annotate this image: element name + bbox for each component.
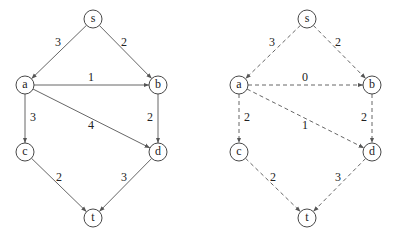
edge-weight-label: 0: [302, 70, 308, 84]
node-label: s: [91, 11, 96, 25]
edge-a-b: 0: [248, 70, 363, 85]
node-c: c: [230, 143, 248, 161]
edge-b-d: 2: [147, 94, 158, 143]
node-a: a: [230, 76, 248, 94]
arrow-icon: [245, 25, 300, 78]
node-t: t: [84, 209, 102, 227]
edge-a-d: 1: [247, 89, 364, 148]
node-label: a: [22, 77, 28, 91]
edge-weight-label: 3: [30, 110, 36, 124]
edge-weight-label: 4: [88, 118, 94, 132]
node-label: d: [155, 144, 161, 158]
node-a: a: [16, 76, 34, 94]
diagram-canvas: 32134223sabcdt32021223sabcdt: [0, 0, 395, 237]
node-t: t: [298, 209, 316, 227]
arrow-icon: [245, 158, 300, 211]
node-b: b: [149, 76, 167, 94]
edge-c-t: 2: [31, 158, 86, 211]
edge-d-t: 3: [99, 158, 151, 211]
node-label: d: [369, 144, 375, 158]
arrow-icon: [99, 25, 151, 78]
arrow-icon: [313, 25, 365, 78]
edge-weight-label: 3: [269, 35, 275, 49]
node-d: d: [149, 143, 167, 161]
edge-s-b: 2: [313, 25, 365, 78]
edge-weight-label: 2: [244, 110, 250, 124]
reweighted-graph: 32021223sabcdt: [230, 10, 381, 227]
edge-weight-label: 3: [121, 170, 127, 184]
arrow-icon: [313, 158, 365, 211]
node-s: s: [84, 10, 102, 28]
arrow-icon: [31, 25, 86, 78]
edge-a-d: 4: [33, 89, 150, 148]
edge-weight-label: 2: [361, 110, 367, 124]
original-graph: 32134223sabcdt: [16, 10, 167, 227]
edge-weight-label: 1: [302, 118, 308, 132]
edge-weight-label: 3: [55, 35, 61, 49]
edge-s-a: 3: [31, 25, 86, 78]
edge-weight-label: 3: [335, 170, 341, 184]
node-d: d: [363, 143, 381, 161]
graph-diagram: 32134223sabcdt32021223sabcdt: [0, 0, 395, 237]
edge-s-b: 2: [99, 25, 151, 78]
edge-weight-label: 2: [335, 35, 341, 49]
edge-d-t: 3: [313, 158, 365, 211]
node-label: c: [22, 144, 27, 158]
edge-weight-label: 1: [88, 70, 94, 84]
edge-weight-label: 2: [147, 110, 153, 124]
node-label: b: [369, 77, 375, 91]
arrow-icon: [31, 158, 86, 211]
edge-a-b: 1: [34, 70, 149, 85]
node-label: b: [155, 77, 161, 91]
node-label: c: [236, 144, 241, 158]
node-c: c: [16, 143, 34, 161]
node-b: b: [363, 76, 381, 94]
node-label: s: [305, 11, 310, 25]
edge-weight-label: 2: [56, 170, 62, 184]
edge-b-d: 2: [361, 94, 372, 143]
edge-s-a: 3: [245, 25, 300, 78]
arrow-icon: [99, 158, 151, 211]
node-s: s: [298, 10, 316, 28]
edge-weight-label: 2: [270, 170, 276, 184]
node-label: a: [236, 77, 242, 91]
edge-a-c: 3: [25, 94, 36, 143]
edge-weight-label: 2: [121, 35, 127, 49]
edge-c-t: 2: [245, 158, 300, 211]
edge-a-c: 2: [239, 94, 250, 143]
